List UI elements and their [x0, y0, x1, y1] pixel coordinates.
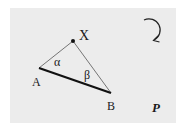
- angle-beta-label: β: [84, 69, 90, 81]
- point-x-label: X: [79, 29, 89, 43]
- point-x-dot: [71, 39, 75, 43]
- clockwise-arrow-icon: [144, 19, 160, 42]
- angle-alpha-label: α: [54, 56, 60, 68]
- plane-label: P: [152, 101, 160, 114]
- point-b-label: B: [107, 100, 115, 112]
- segment-ab: [39, 68, 111, 93]
- point-a-label: A: [32, 76, 41, 88]
- segment-xb: [73, 41, 111, 93]
